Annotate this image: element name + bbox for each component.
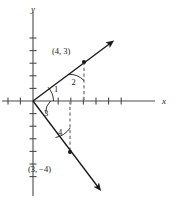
point-4-3-label: (4, 3) — [52, 46, 71, 56]
coordinate-plane-figure: (4, 3) (3, −4) 1 2 3 4 x y — [0, 0, 178, 201]
angle-3-label: 3 — [44, 108, 48, 118]
point-3-minus4-dot — [68, 150, 72, 154]
y-axis-label: y — [30, 4, 35, 14]
x-axis-label: x — [161, 96, 166, 106]
coordinate-plane-svg: (4, 3) (3, −4) 1 2 3 4 x y — [0, 0, 178, 201]
ray-upper-right — [33, 44, 110, 102]
angle-arcs-group — [46, 74, 85, 137]
angle-1-label: 1 — [54, 84, 58, 94]
point-3-minus4-label: (3, −4) — [28, 164, 51, 174]
point-4-3-dot — [82, 60, 86, 64]
axes-group — [2, 12, 155, 196]
ray-lower-right — [33, 101, 98, 187]
angle-2-label: 2 — [72, 77, 76, 87]
